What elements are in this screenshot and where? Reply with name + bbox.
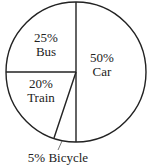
bicycle-leader-line — [58, 141, 62, 150]
slice-label-car-pct: 50% — [90, 50, 114, 65]
slice-label-bus-name: Bus — [36, 44, 56, 59]
slice-label-train-pct: 20% — [29, 76, 53, 91]
slice-label-car-name: Car — [93, 64, 112, 79]
slice-label-bicycle: 5% Bicycle — [28, 150, 89, 165]
pie-chart: 25% Bus 50% Car 20% Train 5% Bicycle — [0, 0, 148, 166]
slice-label-bus-pct: 25% — [34, 30, 58, 45]
slice-label-train-name: Train — [27, 90, 55, 105]
